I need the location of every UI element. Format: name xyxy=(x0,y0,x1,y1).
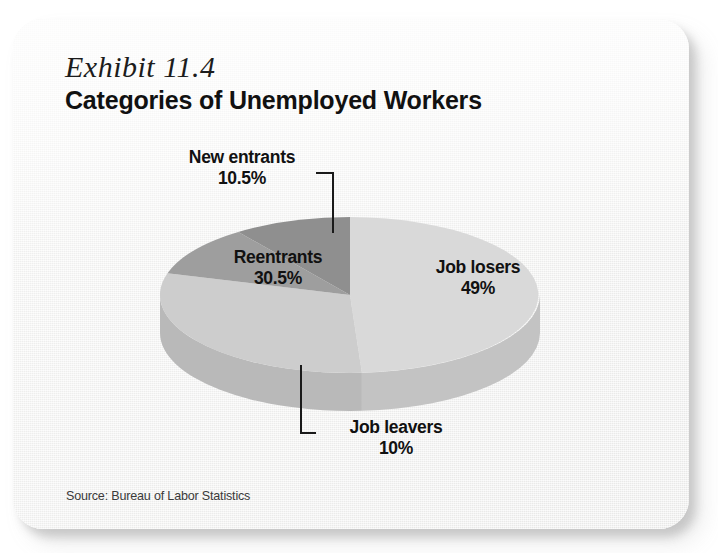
slice-label-new-entrants-percent: 10.5% xyxy=(157,168,327,189)
slice-label-new-entrants-name: New entrants xyxy=(189,147,295,167)
slice-label-new-entrants: New entrants 10.5% xyxy=(157,147,327,188)
exhibit-card: Exhibit 11.4 Categories of Unemployed Wo… xyxy=(13,19,689,529)
slice-label-job-losers-percent: 49% xyxy=(403,278,553,299)
slice-label-reentrants-percent: 30.5% xyxy=(197,268,359,289)
pie-chart-figure: New entrants 10.5% Reentrants 30.5% Job … xyxy=(13,19,689,529)
source-note: Source: Bureau of Labor Statistics xyxy=(66,488,250,503)
slice-label-job-leavers: Job leavers 10% xyxy=(313,417,479,458)
slice-label-job-leavers-name: Job leavers xyxy=(349,417,442,437)
slice-label-job-losers: Job losers 49% xyxy=(403,257,553,298)
slice-label-job-losers-name: Job losers xyxy=(436,257,521,277)
slice-label-reentrants: Reentrants 30.5% xyxy=(197,247,359,288)
slice-label-reentrants-name: Reentrants xyxy=(234,247,322,267)
slice-label-job-leavers-percent: 10% xyxy=(313,438,479,459)
